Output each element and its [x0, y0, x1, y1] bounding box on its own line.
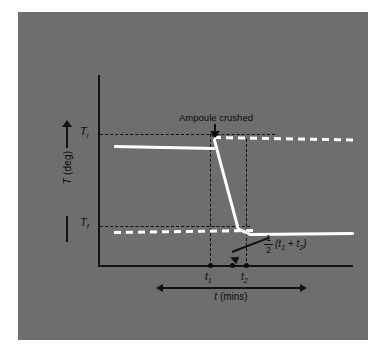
- y-tick-Tf-subscript: f: [87, 223, 89, 230]
- x-axis-label-unit: (mins): [220, 291, 248, 302]
- axis-point-midpoint: [230, 263, 235, 268]
- x-axis-line: [98, 265, 353, 267]
- crush-point-marker: [212, 132, 217, 137]
- chart-panel: T (deg) Ti Tf Ampoule crushed: [18, 12, 368, 340]
- fraction-one-half: 1 2: [264, 234, 273, 255]
- extrapolation-line-upper: [214, 136, 354, 141]
- right-arrow-icon: [300, 284, 307, 292]
- y-tick-Ti-symbol: T: [80, 125, 87, 137]
- midpoint-expression: (t1 + t2): [275, 238, 306, 251]
- x-tick-t1-subscript: 1: [208, 277, 212, 284]
- x-tick-label-t2: t2: [241, 271, 248, 284]
- annotation-midpoint-formula: 1 2 (t1 + t2): [264, 234, 306, 255]
- midpoint-plus: + t: [285, 238, 299, 249]
- curve-segment-drop: [213, 138, 241, 232]
- x-axis-label-symbol: t: [214, 291, 217, 302]
- x-axis-extent-arrow: [161, 287, 301, 289]
- guide-line-Tf: [100, 226, 250, 227]
- fraction-numerator: 1: [264, 234, 273, 244]
- annotation-ampoule-crushed: Ampoule crushed: [156, 112, 276, 123]
- x-axis-label: t (mins): [161, 291, 301, 302]
- y-tick-Tf-symbol: T: [80, 216, 87, 228]
- y-axis-line: [98, 75, 100, 267]
- x-tick-t2-subscript: 2: [244, 277, 248, 284]
- y-tick-Ti-subscript: i: [87, 132, 89, 139]
- figure-root: T (deg) Ti Tf Ampoule crushed: [0, 0, 386, 358]
- extrapolation-line-lower: [114, 229, 254, 234]
- fraction-denominator: 2: [264, 244, 273, 255]
- midpoint-close: ): [303, 238, 306, 249]
- guide-line-Ti: [100, 134, 275, 135]
- y-axis-label-unit: (deg): [62, 151, 73, 175]
- y-axis-label-rule-bottom: [66, 216, 68, 242]
- y-axis-label-group: T (deg): [52, 124, 82, 242]
- x-tick-label-t1: t1: [205, 271, 212, 284]
- y-tick-label-Tf: Tf: [80, 216, 89, 230]
- curve-segment-pre: [114, 145, 215, 150]
- y-tick-label-Ti: Ti: [80, 125, 88, 139]
- axis-point-t1: [208, 263, 213, 268]
- y-axis-label-symbol: T: [62, 178, 73, 184]
- y-axis-label: T (deg): [62, 137, 73, 199]
- axis-point-t2: [244, 263, 249, 268]
- guide-line-t1-vertical: [210, 134, 211, 266]
